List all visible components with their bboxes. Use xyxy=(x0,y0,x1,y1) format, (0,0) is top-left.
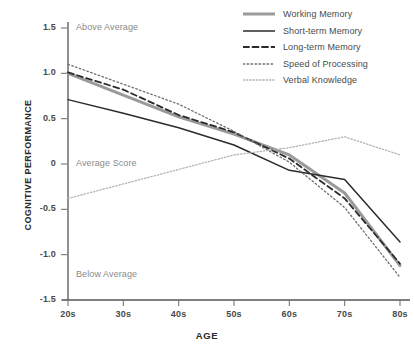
series-line xyxy=(68,72,400,263)
legend-item: Verbal Knowledge xyxy=(243,75,368,85)
chart-legend: Working Memory Short-term Memory Long-te… xyxy=(243,9,368,85)
cognitive-performance-chart: COGNITIVE PERFORMANCE AGE 1.5 1.0 0.5 0 … xyxy=(0,0,414,358)
legend-item: Speed of Processing xyxy=(243,59,368,69)
legend-swatch-short-term-memory xyxy=(243,26,275,36)
legend-item: Working Memory xyxy=(243,9,368,19)
legend-swatch-speed-of-processing xyxy=(243,59,275,69)
legend-label: Short-term Memory xyxy=(283,26,362,36)
legend-label: Speed of Processing xyxy=(283,59,368,69)
legend-label: Verbal Knowledge xyxy=(283,75,357,85)
legend-label: Working Memory xyxy=(283,9,352,19)
series-line xyxy=(68,100,400,242)
series-line xyxy=(68,137,400,199)
series-line xyxy=(68,73,400,265)
legend-item: Short-term Memory xyxy=(243,26,368,36)
legend-item: Long-term Memory xyxy=(243,42,368,52)
series-line xyxy=(68,64,400,277)
legend-swatch-verbal-knowledge xyxy=(243,75,275,85)
legend-swatch-long-term-memory xyxy=(243,42,275,52)
legend-label: Long-term Memory xyxy=(283,42,361,52)
legend-swatch-working-memory xyxy=(243,9,275,19)
